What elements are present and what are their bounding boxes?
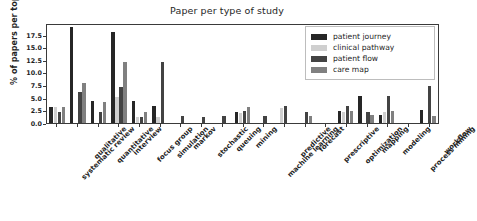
bar bbox=[309, 116, 312, 123]
y-axis: 0.02.55.07.510.012.515.017.5 bbox=[0, 24, 46, 124]
chart-title: Paper per type of study bbox=[0, 5, 454, 16]
x-tick-mark bbox=[263, 124, 264, 127]
legend-swatch bbox=[311, 45, 327, 51]
x-tick-mark bbox=[118, 124, 119, 127]
legend-item: care map bbox=[311, 64, 429, 75]
bar bbox=[181, 116, 184, 123]
bar bbox=[156, 117, 159, 123]
x-tick-mark bbox=[284, 124, 285, 127]
y-tick-label: 12.5 bbox=[26, 57, 42, 65]
legend-swatch bbox=[311, 67, 327, 73]
bar bbox=[370, 115, 373, 123]
legend-item: clinical pathway bbox=[311, 42, 429, 53]
bar bbox=[144, 112, 147, 123]
bar bbox=[350, 111, 353, 123]
x-tick-mark bbox=[201, 124, 202, 127]
bar bbox=[99, 112, 102, 123]
x-tick-mark bbox=[56, 124, 57, 127]
bar bbox=[346, 106, 349, 123]
bar bbox=[383, 112, 386, 123]
bar bbox=[243, 111, 246, 123]
bar bbox=[123, 62, 126, 123]
bar bbox=[161, 62, 164, 123]
bar bbox=[111, 32, 114, 123]
bar-group bbox=[253, 25, 274, 123]
y-tick-label: 10.0 bbox=[26, 69, 42, 77]
bar-group bbox=[88, 25, 109, 123]
x-tick-mark bbox=[98, 124, 99, 127]
bar bbox=[202, 117, 205, 123]
bar bbox=[379, 115, 382, 123]
bar bbox=[54, 107, 57, 123]
bar bbox=[342, 112, 345, 123]
bar bbox=[82, 83, 85, 123]
bar-group bbox=[273, 25, 294, 123]
bar bbox=[358, 96, 361, 123]
y-tick-label: 5.0 bbox=[31, 95, 42, 103]
bar bbox=[428, 86, 431, 123]
legend: patient journeyclinical pathwaypatient f… bbox=[305, 26, 435, 80]
x-tick-mark bbox=[222, 124, 223, 127]
legend-label: patient journey bbox=[333, 32, 391, 41]
y-tick-label: 2.5 bbox=[31, 107, 42, 115]
x-tick-mark bbox=[408, 124, 409, 127]
bar-group bbox=[47, 25, 68, 123]
bar bbox=[366, 112, 369, 123]
bar bbox=[247, 107, 250, 123]
x-tick-mark bbox=[160, 124, 161, 127]
x-tick-mark bbox=[180, 124, 181, 127]
bar bbox=[420, 110, 423, 123]
bar-group bbox=[68, 25, 89, 123]
bar bbox=[152, 106, 155, 123]
x-axis-tick-labels: systematic reviewqualitativequantitative… bbox=[46, 125, 439, 220]
x-tick-mark bbox=[387, 124, 388, 127]
bar bbox=[391, 111, 394, 123]
bar bbox=[136, 117, 139, 123]
bar bbox=[140, 117, 143, 123]
bar bbox=[235, 112, 238, 123]
bar-group bbox=[212, 25, 233, 123]
x-tick-mark bbox=[139, 124, 140, 127]
bar-group bbox=[150, 25, 171, 123]
legend-swatch bbox=[311, 34, 327, 40]
legend-label: care map bbox=[333, 65, 369, 74]
bar-group bbox=[109, 25, 130, 123]
x-tick-mark bbox=[77, 124, 78, 127]
bar bbox=[62, 107, 65, 123]
bar bbox=[70, 27, 73, 123]
bar bbox=[305, 112, 308, 123]
legend-item: patient flow bbox=[311, 53, 429, 64]
bar bbox=[78, 92, 81, 123]
bar bbox=[222, 116, 225, 123]
bar bbox=[263, 116, 266, 123]
bar bbox=[103, 102, 106, 123]
legend-label: patient flow bbox=[333, 54, 378, 63]
x-tick-label: workflow bbox=[442, 125, 473, 156]
y-tick-label: 17.5 bbox=[26, 32, 42, 40]
bar bbox=[280, 108, 283, 123]
bar-group bbox=[129, 25, 150, 123]
x-tick-mark bbox=[325, 124, 326, 127]
bar-group bbox=[191, 25, 212, 123]
bar-group bbox=[232, 25, 253, 123]
bar bbox=[132, 101, 135, 123]
bar bbox=[387, 96, 390, 123]
bar bbox=[432, 116, 435, 123]
x-tick-mark bbox=[305, 124, 306, 127]
bar bbox=[119, 87, 122, 123]
legend-swatch bbox=[311, 56, 327, 62]
bar bbox=[338, 111, 341, 123]
x-tick-mark bbox=[367, 124, 368, 127]
x-tick-mark bbox=[243, 124, 244, 127]
y-tick-label: 7.5 bbox=[31, 82, 42, 90]
bar bbox=[91, 101, 94, 123]
bar bbox=[49, 107, 52, 123]
bar bbox=[58, 112, 61, 123]
bar bbox=[115, 97, 118, 123]
bar bbox=[284, 106, 287, 123]
y-tick-label: 0.0 bbox=[31, 120, 42, 128]
legend-label: clinical pathway bbox=[333, 43, 394, 52]
legend-item: patient journey bbox=[311, 31, 429, 42]
x-tick-mark bbox=[346, 124, 347, 127]
x-tick-mark bbox=[429, 124, 430, 127]
